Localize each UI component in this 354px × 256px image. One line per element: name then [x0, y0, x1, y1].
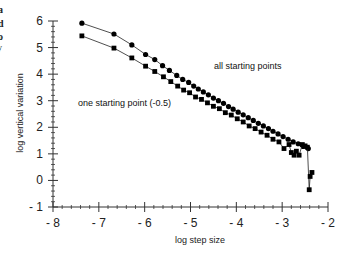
circle-marker — [191, 84, 196, 89]
square-marker — [143, 64, 148, 69]
square-marker — [282, 146, 287, 151]
circle-marker — [129, 42, 134, 47]
circle-marker — [111, 31, 116, 36]
square-marker — [307, 187, 312, 192]
x-tick-label: - 3 — [275, 216, 289, 230]
circle-marker — [201, 89, 206, 94]
y-tick-label: 4 — [36, 67, 43, 81]
annotation-one-starting-point: one starting point (-0.5) — [78, 98, 171, 108]
y-tick-label: 5 — [36, 41, 43, 55]
square-marker — [235, 116, 240, 121]
square-marker — [193, 95, 198, 100]
circle-marker — [211, 95, 216, 100]
x-tick-label: - 4 — [229, 216, 243, 230]
square-marker — [129, 56, 134, 61]
circle-marker — [275, 131, 280, 136]
square-marker — [187, 90, 192, 95]
square-marker — [310, 170, 315, 175]
circle-marker — [280, 134, 285, 139]
square-marker — [259, 130, 264, 135]
circle-marker — [167, 68, 172, 73]
square-marker — [287, 142, 292, 147]
circle-marker — [231, 107, 236, 112]
x-tick-label: - 2 — [321, 216, 335, 230]
x-tick-label: - 6 — [138, 216, 152, 230]
circle-marker — [266, 126, 271, 131]
x-axis-title: log step size — [175, 235, 225, 245]
axes: - 10123456- 8- 7- 6- 5- 4- 3- 2 — [29, 14, 335, 230]
circle-marker — [206, 92, 211, 97]
circle-marker — [270, 129, 275, 134]
square-marker — [79, 33, 84, 38]
square-marker — [161, 74, 166, 79]
y-tick-label: 3 — [36, 94, 43, 108]
circle-marker — [180, 77, 185, 82]
square-marker — [241, 120, 246, 125]
circle-marker — [241, 112, 246, 117]
circle-marker — [186, 80, 191, 85]
circle-marker — [79, 21, 84, 26]
square-marker — [305, 145, 310, 150]
square-marker — [181, 88, 186, 93]
circle-marker — [286, 137, 291, 142]
circle-marker — [174, 73, 179, 78]
circle-marker — [246, 115, 251, 120]
annotation-all-starting-points: all starting points — [214, 61, 282, 71]
circle-marker — [143, 52, 148, 57]
circle-marker — [251, 118, 256, 123]
square-marker — [199, 97, 204, 102]
square-marker — [265, 133, 270, 138]
square-marker — [229, 113, 234, 118]
square-marker — [247, 124, 252, 129]
x-tick-label: - 5 — [183, 216, 197, 230]
y-tick-label: 1 — [36, 147, 43, 161]
y-tick-label: 6 — [36, 14, 43, 28]
circle-marker — [152, 57, 157, 62]
circle-marker — [226, 104, 231, 109]
square-marker — [277, 140, 282, 145]
circle-marker — [256, 121, 261, 126]
circle-marker — [261, 123, 266, 128]
square-marker — [168, 79, 173, 84]
chart: - 10123456- 8- 7- 6- 5- 4- 3- 2 log step… — [0, 0, 354, 256]
square-marker — [211, 104, 216, 109]
y-tick-label: 0 — [36, 173, 43, 187]
x-tick-label: - 7 — [92, 216, 106, 230]
square-marker — [297, 153, 302, 158]
square-marker — [223, 110, 228, 115]
square-marker — [205, 100, 210, 105]
x-tick-label: - 8 — [46, 216, 60, 230]
y-tick-label: 2 — [36, 120, 43, 134]
circle-marker — [236, 110, 241, 115]
circle-marker — [216, 98, 221, 103]
y-tick-label: - 1 — [29, 200, 43, 214]
square-marker — [271, 137, 276, 142]
circle-marker — [196, 86, 201, 91]
y-axis-title: log vertical variation — [15, 73, 25, 153]
square-marker — [175, 84, 180, 89]
series-line-one-starting-point — [82, 36, 312, 190]
square-marker — [152, 69, 157, 74]
square-marker — [217, 106, 222, 111]
square-marker — [112, 46, 117, 51]
square-marker — [253, 126, 258, 131]
circle-marker — [160, 63, 165, 68]
circle-marker — [221, 101, 226, 106]
